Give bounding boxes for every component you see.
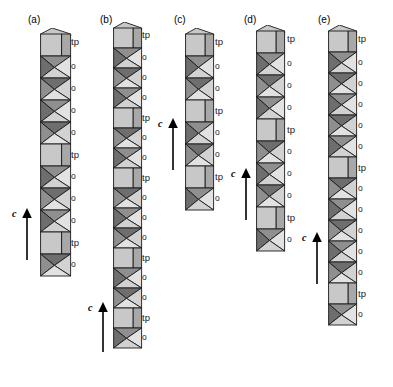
chain-c-unit-label-0: tp <box>215 36 223 47</box>
chain-c-unit-label-2: o <box>215 83 220 93</box>
chain-e-unit-label-4: o <box>358 120 363 130</box>
chain-e-unit-label-0: tp <box>358 33 366 44</box>
chain-d-unit-label-3: o <box>287 102 292 112</box>
chain-a-unit-label-4: o <box>71 127 76 137</box>
chain-e-unit-label-10: o <box>358 246 363 256</box>
chain-a-unit-label-3: o <box>71 105 76 115</box>
chain-c-unit-label-5: o <box>215 149 220 159</box>
chain-b-unit-label-0: tp <box>142 29 150 40</box>
chain-e-unit-label-13: o <box>358 309 363 319</box>
chain-c-unit-label-7: o <box>215 193 220 203</box>
chain-a-unit-label-0: tp <box>71 36 79 47</box>
chain-a-unit-label-7: o <box>71 193 76 203</box>
chain-c-unit-label-6: tp <box>215 171 223 182</box>
chain-a-unit-label-5: tp <box>71 149 79 160</box>
chain-d-unit-label-5: o <box>287 146 292 156</box>
chain-b-unit-label-9: o <box>142 212 147 222</box>
chain-e-unit-label-6: tp <box>358 162 366 173</box>
polyhedral-chain-figure: (a)tpooootpoootpoc(b)tpoootpootpoootpoot… <box>0 0 393 387</box>
chain-b-unit-label-10: o <box>142 232 147 242</box>
chain-d-unit-label-6: o <box>287 168 292 178</box>
chain-d-unit-label-7: o <box>287 190 292 200</box>
panel-label-c: (c) <box>174 14 186 25</box>
polyhedral-chain-a <box>40 28 74 282</box>
chain-e-unit-label-12: tp <box>358 288 366 299</box>
panel-label-e: (e) <box>318 14 330 25</box>
chain-b-unit-label-3: o <box>142 92 147 102</box>
chain-d-unit-label-0: tp <box>287 33 295 44</box>
c-axis-label-c: c <box>158 118 162 129</box>
c-axis-arrow-d: c <box>231 168 253 220</box>
chain-c-unit-label-4: o <box>215 127 220 137</box>
chain-a-unit-label-8: o <box>71 215 76 225</box>
chain-c-unit-label-3: tp <box>215 105 223 116</box>
chain-a-unit-label-2: o <box>71 83 76 93</box>
panel-label-b: (b) <box>100 14 112 25</box>
polyhedral-chain-d <box>256 25 288 257</box>
chain-a-unit-label-9: tp <box>71 237 79 248</box>
panel-label-d: (d) <box>244 14 256 25</box>
chain-b-unit-label-1: o <box>142 52 147 62</box>
chain-e-unit-label-1: o <box>358 57 363 67</box>
chain-b-unit-label-2: o <box>142 72 147 82</box>
chain-b-unit-label-4: tp <box>142 112 150 123</box>
chain-a-unit-label-10: o <box>71 259 76 269</box>
chain-e-unit-label-11: o <box>358 267 363 277</box>
chain-b-unit-label-15: o <box>142 332 147 342</box>
chain-e-unit-label-3: o <box>358 99 363 109</box>
chain-e-unit-label-2: o <box>358 78 363 88</box>
chain-b-unit-label-5: o <box>142 132 147 142</box>
chain-b-unit-label-12: o <box>142 272 147 282</box>
chain-a-unit-label-1: o <box>71 61 76 71</box>
c-axis-label-b: c <box>88 302 92 313</box>
chain-e-unit-label-9: o <box>358 225 363 235</box>
chain-b-unit-label-11: tp <box>142 252 150 263</box>
polyhedral-chain-e <box>328 25 360 331</box>
chain-a-unit-label-6: o <box>71 171 76 181</box>
panel-label-a: (a) <box>28 14 40 25</box>
c-axis-arrow-e: c <box>302 232 324 284</box>
c-axis-label-d: c <box>231 168 235 179</box>
c-axis-label-a: c <box>12 208 16 219</box>
polyhedral-chain-b <box>113 22 145 354</box>
chain-b-unit-label-8: o <box>142 192 147 202</box>
c-axis-label-e: c <box>302 232 306 243</box>
chain-b-unit-label-14: tp <box>142 312 150 323</box>
chain-c-unit-label-1: o <box>215 61 220 71</box>
chain-e-unit-label-8: o <box>358 204 363 214</box>
chain-d-unit-label-8: tp <box>287 212 295 223</box>
chain-b-unit-label-6: o <box>142 152 147 162</box>
chain-d-unit-label-4: tp <box>287 124 295 135</box>
c-axis-arrow-c: c <box>158 118 180 170</box>
chain-d-unit-label-1: o <box>287 58 292 68</box>
polyhedral-chain-c <box>185 28 217 216</box>
chain-e-unit-label-5: o <box>358 141 363 151</box>
chain-b-unit-label-7: tp <box>142 172 150 183</box>
chain-d-unit-label-9: o <box>287 234 292 244</box>
chain-b-unit-label-13: o <box>142 292 147 302</box>
chain-d-unit-label-2: o <box>287 80 292 90</box>
c-axis-arrow-b: c <box>88 302 110 352</box>
c-axis-arrow-a: c <box>12 208 34 260</box>
chain-e-unit-label-7: o <box>358 183 363 193</box>
